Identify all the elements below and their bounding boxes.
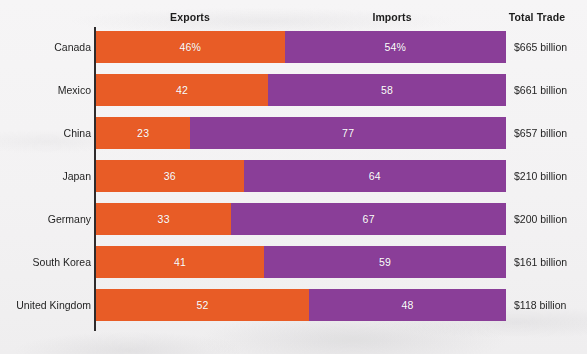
table-row: Mexico4258$661 billion [0, 74, 587, 106]
stacked-bar: 3664 [96, 160, 506, 192]
stacked-bar: 2377 [96, 117, 506, 149]
row-label-mexico: Mexico [58, 74, 91, 106]
row-total-trade-value: $210 billion [514, 160, 567, 192]
bar-value-imports: 58 [381, 84, 393, 96]
row-label-japan: Japan [62, 160, 91, 192]
row-label-south-korea: South Korea [33, 246, 91, 278]
bar-value-exports: 46% [179, 41, 201, 53]
row-label-china: China [64, 117, 91, 149]
bar-segment-exports: 36 [96, 160, 244, 192]
stacked-bar: 5248 [96, 289, 506, 321]
bar-value-exports: 33 [158, 213, 170, 225]
bar-value-imports: 77 [342, 127, 354, 139]
bar-segment-exports: 42 [96, 74, 268, 106]
bar-value-imports: 67 [363, 213, 375, 225]
row-total-trade-value: $161 billion [514, 246, 567, 278]
plot-area: Canada46%54%$665 billionMexico4258$661 b… [0, 0, 587, 354]
bar-segment-imports: 59 [264, 246, 506, 278]
row-label-germany: Germany [48, 203, 91, 235]
bar-value-imports: 54% [384, 41, 406, 53]
bar-value-exports: 52 [197, 299, 209, 311]
row-total-trade-value: $200 billion [514, 203, 567, 235]
row-label-canada: Canada [54, 31, 91, 63]
bar-segment-exports: 33 [96, 203, 231, 235]
table-row: United Kingdom5248$118 billion [0, 289, 587, 321]
bar-segment-imports: 54% [285, 31, 506, 63]
bar-segment-exports: 52 [96, 289, 309, 321]
bar-value-imports: 64 [369, 170, 381, 182]
bar-segment-imports: 64 [244, 160, 506, 192]
row-total-trade-value: $118 billion [514, 289, 566, 321]
table-row: Germany3367$200 billion [0, 203, 587, 235]
stacked-bar: 4258 [96, 74, 506, 106]
bar-segment-imports: 77 [190, 117, 506, 149]
table-row: Canada46%54%$665 billion [0, 31, 587, 63]
bar-segment-exports: 46% [96, 31, 285, 63]
bar-segment-imports: 48 [309, 289, 506, 321]
bar-value-exports: 42 [176, 84, 188, 96]
table-row: Japan3664$210 billion [0, 160, 587, 192]
table-row: China2377$657 billion [0, 117, 587, 149]
bar-segment-imports: 58 [268, 74, 506, 106]
row-total-trade-value: $661 billion [514, 74, 567, 106]
row-label-united-kingdom: United Kingdom [16, 289, 91, 321]
bar-value-exports: 36 [164, 170, 176, 182]
bar-value-exports: 23 [137, 127, 149, 139]
stacked-bar-chart: Exports Imports Total Trade Canada46%54%… [0, 0, 587, 354]
row-total-trade-value: $665 billion [514, 31, 567, 63]
bar-value-imports: 48 [402, 299, 414, 311]
stacked-bar: 4159 [96, 246, 506, 278]
stacked-bar: 3367 [96, 203, 506, 235]
bar-segment-imports: 67 [231, 203, 506, 235]
bar-segment-exports: 23 [96, 117, 190, 149]
stacked-bar: 46%54% [96, 31, 506, 63]
row-total-trade-value: $657 billion [514, 117, 567, 149]
bar-value-imports: 59 [379, 256, 391, 268]
table-row: South Korea4159$161 billion [0, 246, 587, 278]
bar-segment-exports: 41 [96, 246, 264, 278]
bar-value-exports: 41 [174, 256, 186, 268]
